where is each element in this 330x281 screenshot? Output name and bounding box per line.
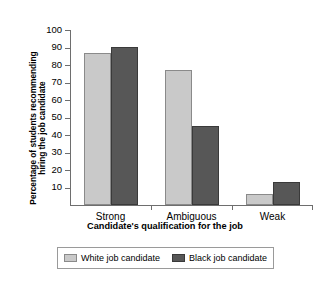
- legend-swatch-black: [172, 254, 185, 262]
- legend-item-white: White job candidate: [64, 253, 160, 263]
- x-tick: [151, 205, 152, 210]
- y-tick: 50: [65, 118, 70, 119]
- y-tick: 20: [65, 170, 70, 171]
- legend-swatch-white: [64, 254, 77, 262]
- y-tick: 30: [65, 153, 70, 154]
- y-tick-label: 10: [51, 181, 62, 192]
- legend-item-black: Black job candidate: [172, 253, 267, 263]
- plot-area: 102030405060708090100 StrongAmbiguousWea…: [70, 30, 313, 205]
- bar: [192, 126, 219, 205]
- y-tick-label: 50: [51, 111, 62, 122]
- y-tick: 80: [65, 65, 70, 66]
- y-tick-label: 30: [51, 146, 62, 157]
- y-tick-label: 100: [46, 24, 62, 35]
- y-tick-label: 90: [51, 41, 62, 52]
- x-axis-line: [70, 205, 313, 206]
- y-tick: 10: [65, 188, 70, 189]
- y-tick-label: 40: [51, 129, 62, 140]
- y-axis-label-line-2: hiring the job candidate: [38, 81, 47, 174]
- chart-legend: White job candidate Black job candidate: [57, 247, 274, 269]
- y-tick-label: 70: [51, 76, 62, 87]
- x-axis-label: Candidate's qualification for the job: [0, 221, 330, 231]
- y-tick: 70: [65, 83, 70, 84]
- y-tick-label: 60: [51, 94, 62, 105]
- y-tick: 100: [65, 30, 70, 31]
- x-tick: [232, 205, 233, 210]
- y-tick: 60: [65, 100, 70, 101]
- bar-chart: Percentage of students recommending hiri…: [0, 0, 330, 281]
- y-axis-label: Percentage of students recommending hiri…: [23, 28, 53, 228]
- legend-label-black: Black job candidate: [189, 253, 267, 263]
- bar: [84, 53, 111, 205]
- y-tick-label: 80: [51, 59, 62, 70]
- x-tick: [312, 205, 313, 210]
- y-tick-label: 20: [51, 164, 62, 175]
- y-axis-line: [70, 30, 71, 205]
- y-tick: 40: [65, 135, 70, 136]
- bar: [111, 47, 138, 205]
- bar: [246, 194, 273, 205]
- legend-label-white: White job candidate: [81, 253, 160, 263]
- bar: [273, 182, 300, 205]
- y-tick: 90: [65, 48, 70, 49]
- bar: [165, 70, 192, 205]
